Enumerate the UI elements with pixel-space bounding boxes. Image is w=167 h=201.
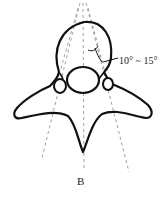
vertebral-body bbox=[57, 22, 112, 72]
angle-annotation: 10° ~ 15° bbox=[119, 55, 157, 66]
panel-label: B bbox=[77, 175, 84, 187]
vertebra-drawing bbox=[0, 0, 167, 201]
right-facet bbox=[103, 78, 113, 90]
spinal-canal bbox=[67, 67, 99, 93]
vertebra-diagram: 10° ~ 15° B bbox=[0, 0, 167, 201]
left-facet bbox=[54, 79, 66, 93]
